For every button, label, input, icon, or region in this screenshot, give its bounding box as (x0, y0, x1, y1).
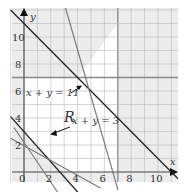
eq-label-3: x + y = 3 (72, 115, 119, 126)
y-tick-label: 2 (15, 140, 21, 151)
x-tick-label: 2 (46, 173, 52, 184)
x-tick-label: 0 (19, 173, 25, 184)
y-tick-label: 10 (12, 32, 25, 43)
y-axis-label: y (29, 11, 36, 22)
x-tick-label: 8 (126, 173, 132, 184)
x-tick-label: 4 (73, 173, 79, 184)
y-tick-label: 6 (15, 86, 21, 97)
y-tick-label: 8 (15, 59, 21, 70)
graph-svg: 0246810 246810 x y R x + y = 11 x + y = … (0, 0, 192, 192)
x-tick-label: 10 (150, 173, 163, 184)
y-tick-label: 4 (15, 113, 21, 124)
inequality-graph: 0246810 246810 x y R x + y = 11 x + y = … (0, 0, 192, 192)
x-axis-label: x (170, 156, 176, 167)
x-tick-label: 6 (99, 173, 105, 184)
